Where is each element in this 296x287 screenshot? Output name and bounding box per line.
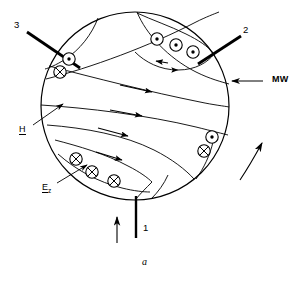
ez-field-subscript: z <box>48 187 51 194</box>
metal-wall-label: MW <box>272 75 289 84</box>
port-2-line <box>198 36 241 64</box>
dot-circle-icon <box>151 33 163 45</box>
crossed-circle-icon <box>86 166 98 178</box>
field-line-diag-3 <box>41 105 228 135</box>
h-field-lines <box>41 12 229 199</box>
crossed-circle-icon <box>70 153 82 165</box>
ez-field-label: Ez <box>42 183 51 194</box>
dot-circle-icon <box>206 131 218 143</box>
h-field-label: H <box>19 125 26 135</box>
ez-field-leader-arrow <box>57 165 87 183</box>
port-3-label: 3 <box>14 20 19 30</box>
crossed-circle-icon <box>54 66 66 78</box>
field-line-arrow-diag-2 <box>120 85 152 92</box>
h-field-label-text: H <box>19 125 26 135</box>
port-1-label: 1 <box>143 223 148 233</box>
dot-circle-icon <box>170 39 182 51</box>
waveguide-cross-section-diagram <box>0 0 296 287</box>
crossed-circle-icon <box>108 175 120 187</box>
h-field-leader-arrow <box>33 104 63 125</box>
field-line-bottom-stem <box>136 182 152 199</box>
port-2-label: 2 <box>243 25 248 35</box>
field-line-diag-4 <box>47 125 194 179</box>
field-line-arrow-top <box>156 61 168 63</box>
field-line-arrow-bottom <box>96 152 122 160</box>
dot-circle-icon <box>187 46 199 58</box>
field-line-arrow-diag-3 <box>110 110 142 116</box>
field-line-loop-top-outer <box>137 12 229 84</box>
crossed-circle-icon <box>198 145 210 157</box>
rotation-arrow <box>240 143 262 180</box>
dot-circle-icon <box>63 53 75 65</box>
field-line-diag-2 <box>49 66 229 107</box>
figure-caption: a <box>142 256 147 267</box>
